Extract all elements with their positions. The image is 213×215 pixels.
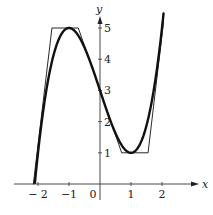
ticks: − 2−101212345 <box>28 22 165 201</box>
y-tick-label: 1 <box>104 147 111 160</box>
x-tick-label: − 2 <box>28 188 48 201</box>
chart-canvas: − 2−101212345 x y <box>0 0 213 215</box>
y-axis-arrow-icon <box>98 16 103 24</box>
x-tick-label: 2 <box>159 188 166 201</box>
x-axis-label: x <box>202 178 209 191</box>
y-tick-label: 4 <box>104 53 111 66</box>
cubic-curve <box>35 13 164 182</box>
x-tick-label: −1 <box>61 188 77 201</box>
x-tick-label: 0 <box>90 188 97 201</box>
series <box>33 13 163 184</box>
y-axis-label: y <box>95 3 103 16</box>
x-axis-arrow-icon <box>191 182 199 187</box>
y-tick-label: 3 <box>104 84 111 97</box>
y-tick-label: 5 <box>104 22 111 35</box>
x-tick-label: 1 <box>128 188 135 201</box>
piecewise-linear-approximation <box>33 22 163 184</box>
